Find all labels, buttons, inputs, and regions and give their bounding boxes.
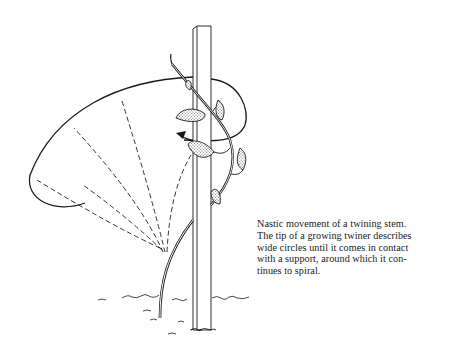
circumnutation-path	[29, 77, 246, 207]
caption-line: wide circles until it comes in contact	[257, 242, 452, 254]
support-pole	[191, 26, 216, 330]
leaf	[176, 109, 205, 121]
caption-line: with a support, around which it con-	[257, 253, 452, 265]
twining-stem-illustration	[0, 0, 452, 347]
figure-caption: Nastic movement of a twining stem. The t…	[257, 218, 452, 277]
caption-line: Nastic movement of a twining stem.	[257, 218, 452, 230]
caption-line: tinues to spiral.	[257, 265, 452, 277]
leaf	[186, 81, 192, 90]
ground	[98, 295, 249, 335]
leaf	[237, 148, 246, 170]
caption-line: The tip of a growing twiner describes	[257, 230, 452, 242]
